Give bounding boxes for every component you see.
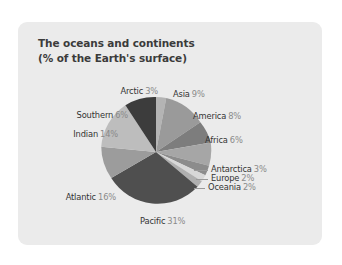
pie-label-southern-name: Southern xyxy=(77,110,114,120)
leader-line-antarctica xyxy=(194,170,208,171)
pie-label-arctic-pct: 3% xyxy=(145,86,158,96)
pie-label-atlantic-name: Atlantic xyxy=(66,192,96,202)
leader-line-oceania xyxy=(194,188,205,189)
pie-label-indian-name: Indian xyxy=(73,129,98,139)
pie-label-atlantic: Atlantic16% xyxy=(18,193,116,203)
pie-label-oceania: Oceania2% xyxy=(208,183,256,193)
pie-label-oceania-name: Oceania xyxy=(208,182,241,192)
pie-label-arctic-name: Arctic xyxy=(120,86,143,96)
pie-label-antarctica-pct: 3% xyxy=(254,164,267,174)
pie-label-southern-pct: 6% xyxy=(115,110,128,120)
pie-label-america-pct: 8% xyxy=(228,111,241,121)
pie-label-asia: Asia9% xyxy=(173,90,205,100)
pie-label-indian-pct: 14% xyxy=(100,129,118,139)
pie-label-africa: Africa6% xyxy=(205,136,243,146)
chart-card: The oceans and continents (% of the Eart… xyxy=(18,22,322,245)
pie-label-america-name: America xyxy=(193,111,226,121)
pie-label-atlantic-pct: 16% xyxy=(98,192,116,202)
pie-chart-region: Southern6% Indian14% Atlantic16% Arctic3… xyxy=(18,22,322,245)
pie-label-america: America8% xyxy=(193,112,241,122)
leader-line-europe xyxy=(196,179,208,180)
pie-label-pacific-pct: 31% xyxy=(167,216,185,226)
pie-label-oceania-pct: 2% xyxy=(243,182,256,192)
pie-label-southern: Southern6% xyxy=(18,111,128,121)
pie-label-pacific-name: Pacific xyxy=(140,216,165,226)
pie-label-arctic: Arctic3% xyxy=(18,87,158,97)
pie-label-asia-name: Asia xyxy=(173,89,190,99)
pie-label-indian: Indian14% xyxy=(18,130,118,140)
pie-label-pacific: Pacific31% xyxy=(140,217,185,227)
pie-label-asia-pct: 9% xyxy=(192,89,205,99)
pie-label-africa-pct: 6% xyxy=(230,135,243,145)
pie-label-africa-name: Africa xyxy=(205,135,228,145)
